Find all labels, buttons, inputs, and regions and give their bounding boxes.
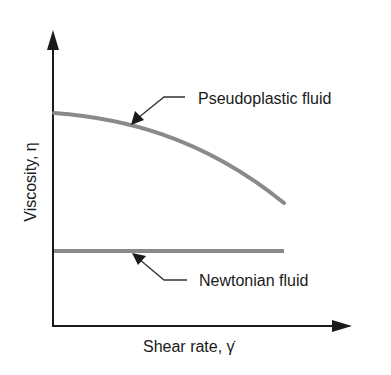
newtonian-label: Newtonian fluid <box>199 272 308 289</box>
newtonian-leader <box>139 259 187 280</box>
pseudoplastic-leader <box>138 97 185 118</box>
pseudoplastic-curve <box>54 113 284 203</box>
x-axis-label: Shear rate, γ̇ <box>143 338 236 355</box>
y-axis-label: Viscosity, η <box>22 142 39 221</box>
y-axis-arrow-icon <box>47 30 59 50</box>
x-axis-arrow-icon <box>332 320 352 332</box>
pseudoplastic-label: Pseudoplastic fluid <box>198 90 331 107</box>
viscosity-diagram: Pseudoplastic fluid Newtonian fluid Shea… <box>0 0 391 375</box>
pseudoplastic-arrowhead-icon <box>131 111 144 125</box>
